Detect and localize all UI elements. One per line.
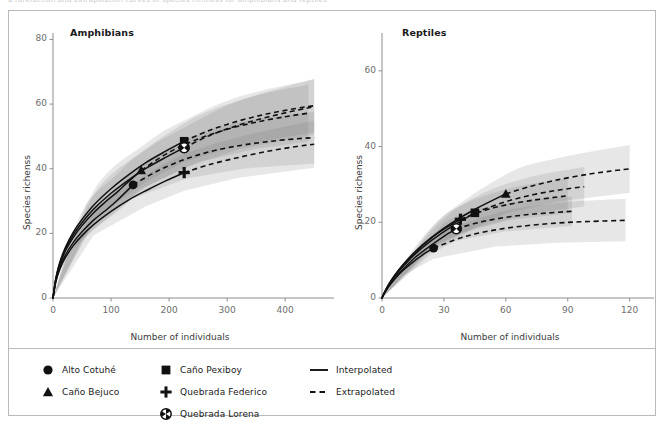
- legend-label-quebrada-lorena: Quebrada Lorena: [180, 409, 259, 419]
- observed-point-circle-marker: [429, 244, 438, 253]
- legend-label-interpolated: Interpolated: [336, 365, 392, 375]
- plot-title-amphibians: Amphibians: [70, 27, 134, 38]
- triangle-marker-icon: [41, 385, 55, 399]
- legend-label-cano-bejuco: Caño Bejuco: [62, 387, 119, 397]
- legend-item-cano-bejuco[interactable]: Caño Bejuco: [41, 383, 119, 401]
- legend: Alto Cotuhé Caño Bejuco Caño Pexiboy: [9, 349, 655, 415]
- xtick-label: 0: [362, 305, 402, 315]
- xtick-label: 90: [548, 305, 588, 315]
- plot-reptiles: Reptiles Number of individuals Species r…: [330, 0, 660, 348]
- plus-marker-icon: [159, 385, 173, 399]
- observed-point-circle-marker: [129, 180, 138, 189]
- square-marker-icon: [159, 363, 173, 377]
- observed-point-square-marker: [471, 209, 480, 218]
- plot-amphibians: Amphibians Number of individuals Species…: [0, 0, 340, 348]
- legend-item-extrapolated[interactable]: Extrapolated: [309, 383, 395, 401]
- ytick-label: 20: [19, 227, 47, 237]
- xtick-label: 30: [424, 305, 464, 315]
- observed-point-crossed-circle-marker: [451, 224, 461, 234]
- ytick-label: 60: [348, 65, 376, 75]
- ytick-label: 40: [19, 163, 47, 173]
- xaxis-title-amphibians: Number of individuals: [60, 332, 300, 342]
- chart-canvas-reptiles: [330, 0, 660, 348]
- xtick-label: 200: [149, 305, 189, 315]
- figure-container: a rarefaction and extrapolation curves o…: [0, 0, 665, 426]
- xtick-label: 300: [207, 305, 247, 315]
- legend-item-quebrada-lorena[interactable]: Quebrada Lorena: [159, 405, 259, 423]
- confidence-bands: [382, 145, 630, 298]
- legend-item-interpolated[interactable]: Interpolated: [309, 361, 392, 379]
- circle-marker-icon: [41, 363, 55, 377]
- crossed-circle-marker-icon: [159, 407, 173, 421]
- ytick-label: 80: [19, 33, 47, 43]
- legend-label-extrapolated: Extrapolated: [336, 387, 395, 397]
- xtick-label: 100: [91, 305, 131, 315]
- xtick-label: 0: [33, 305, 73, 315]
- ytick-label: 40: [348, 141, 376, 151]
- dashed-line-icon: [309, 385, 329, 399]
- legend-item-alto-cotuhe[interactable]: Alto Cotuhé: [41, 361, 116, 379]
- chart-canvas-amphibians: [0, 0, 340, 348]
- plot-title-reptiles: Reptiles: [402, 27, 447, 38]
- xaxis-title-reptiles: Number of individuals: [390, 332, 630, 342]
- solid-line-icon: [309, 363, 329, 377]
- ytick-label: 60: [19, 98, 47, 108]
- ytick-label: 0: [19, 292, 47, 302]
- legend-label-cano-pexiboy: Caño Pexiboy: [180, 365, 242, 375]
- legend-item-quebrada-federico[interactable]: Quebrada Federico: [159, 383, 267, 401]
- ytick-label: 0: [348, 292, 376, 302]
- xtick-label: 400: [265, 305, 305, 315]
- observed-point-crossed-circle-marker: [179, 143, 189, 153]
- xtick-label: 60: [486, 305, 526, 315]
- xtick-label: 120: [610, 305, 650, 315]
- legend-item-cano-pexiboy[interactable]: Caño Pexiboy: [159, 361, 242, 379]
- legend-label-alto-cotuhe: Alto Cotuhé: [62, 365, 116, 375]
- ytick-label: 20: [348, 216, 376, 226]
- legend-label-quebrada-federico: Quebrada Federico: [180, 387, 267, 397]
